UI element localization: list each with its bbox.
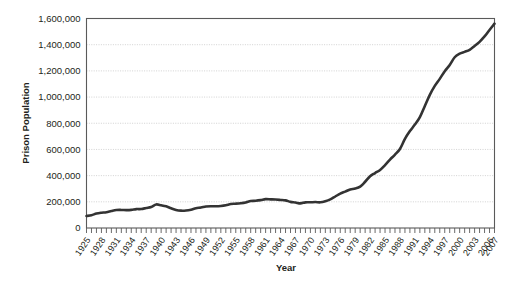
- y-tick-label: 1,600,000: [38, 13, 80, 24]
- y-tick-label: 1,000,000: [38, 91, 80, 102]
- y-tick-label: 1,200,000: [38, 65, 80, 76]
- y-tick-label: 200,000: [46, 196, 80, 207]
- prison-population-chart-figure: 0200,000400,000600,000800,0001,000,0001,…: [0, 0, 520, 286]
- y-tick-label: 600,000: [46, 144, 80, 155]
- x-axis-title: Year: [276, 262, 296, 273]
- y-tick-label: 0: [75, 222, 80, 233]
- chart-canvas: 0200,000400,000600,000800,0001,000,0001,…: [0, 0, 520, 286]
- y-tick-label: 1,400,000: [38, 39, 80, 50]
- y-tick-label: 800,000: [46, 118, 80, 129]
- y-tick-label: 400,000: [46, 170, 80, 181]
- y-axis-title: Prison Population: [20, 82, 31, 163]
